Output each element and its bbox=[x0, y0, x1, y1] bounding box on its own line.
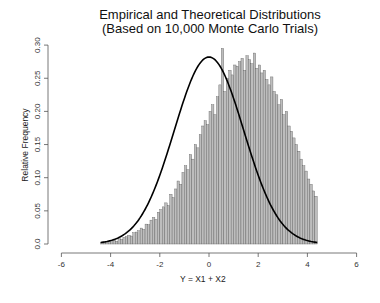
histogram-bar bbox=[202, 126, 204, 244]
histogram-bar bbox=[199, 135, 201, 244]
y-tick-label: 0.05 bbox=[33, 203, 42, 219]
histogram-bar bbox=[160, 210, 162, 244]
histogram-bar bbox=[143, 229, 145, 244]
histogram-bar bbox=[125, 237, 127, 244]
histogram-bar bbox=[263, 70, 265, 244]
histogram-bar bbox=[120, 239, 122, 244]
histogram-bar bbox=[162, 207, 164, 244]
histogram-bar bbox=[295, 145, 297, 244]
histogram-bar bbox=[246, 56, 248, 244]
histogram-bar bbox=[219, 85, 221, 244]
histogram-bar bbox=[118, 239, 120, 244]
histogram-bar bbox=[224, 92, 226, 244]
histogram-bar bbox=[273, 92, 275, 244]
histogram-bar bbox=[305, 171, 307, 244]
histogram-bar bbox=[179, 184, 181, 244]
histogram-bar bbox=[187, 170, 189, 244]
histogram-bar bbox=[130, 236, 132, 244]
x-tick-label: -2 bbox=[156, 260, 164, 269]
histogram-bar bbox=[310, 184, 312, 244]
histogram-bar bbox=[285, 111, 287, 244]
histogram-bar bbox=[175, 189, 177, 244]
histogram-bar bbox=[253, 53, 255, 244]
histogram-bar bbox=[167, 206, 169, 244]
histogram-bar bbox=[138, 231, 140, 244]
histogram-bar bbox=[271, 77, 273, 244]
x-tick-label: -6 bbox=[58, 260, 66, 269]
histogram-bar bbox=[288, 126, 290, 244]
histogram-bar bbox=[214, 115, 216, 244]
histogram-bar bbox=[298, 151, 300, 244]
y-tick-label: 0.15 bbox=[33, 136, 42, 152]
histogram-bar bbox=[207, 125, 209, 244]
histogram-bar bbox=[211, 105, 213, 244]
histogram-bar bbox=[293, 138, 295, 244]
histogram-bar bbox=[197, 148, 199, 244]
histogram-bar bbox=[148, 225, 150, 244]
histogram-bar bbox=[209, 111, 211, 244]
histogram-bar bbox=[150, 220, 152, 244]
x-tick-label: -4 bbox=[107, 260, 115, 269]
histogram-bar bbox=[236, 66, 238, 244]
histogram-bar bbox=[106, 243, 108, 244]
histogram-bar bbox=[300, 159, 302, 244]
histogram-bar bbox=[243, 70, 245, 244]
histogram-bar bbox=[116, 241, 118, 244]
histogram-plot: 0.00.050.100.150.200.250.30-6-4-20246 bbox=[0, 0, 380, 303]
histogram-bar bbox=[266, 80, 268, 244]
histogram-bar bbox=[278, 105, 280, 244]
histogram-bar bbox=[226, 78, 228, 244]
histogram-bar bbox=[184, 166, 186, 244]
x-tick-label: 6 bbox=[354, 260, 359, 269]
histogram-bar bbox=[302, 166, 304, 244]
histogram-bar bbox=[194, 145, 196, 244]
x-tick-label: 0 bbox=[207, 260, 212, 269]
histogram-bar bbox=[275, 95, 277, 244]
histogram-bar bbox=[234, 65, 236, 244]
x-axis-label: Y = X1 + X2 bbox=[180, 274, 226, 284]
histogram-bar bbox=[123, 237, 125, 244]
histogram-bar bbox=[155, 219, 157, 244]
histogram-bar bbox=[177, 181, 179, 244]
histogram-bar bbox=[192, 159, 194, 244]
y-tick-label: 0.10 bbox=[33, 169, 42, 185]
histogram-bar bbox=[268, 85, 270, 244]
y-tick-label: 0.30 bbox=[33, 37, 42, 53]
y-tick-label: 0.20 bbox=[33, 103, 42, 119]
histogram-bar bbox=[165, 203, 167, 244]
histogram-bar bbox=[140, 228, 142, 244]
histogram-bar bbox=[221, 48, 223, 244]
histogram-bar bbox=[241, 58, 243, 244]
histogram-bar bbox=[152, 217, 154, 244]
histogram-bar bbox=[315, 196, 317, 244]
histogram-bar bbox=[231, 75, 233, 244]
histogram-bar bbox=[239, 62, 241, 244]
histogram-bar bbox=[307, 179, 309, 244]
histogram-bar bbox=[312, 191, 314, 244]
histogram-bar bbox=[182, 172, 184, 244]
y-tick-label: 0.25 bbox=[33, 70, 42, 86]
histogram-bar bbox=[204, 121, 206, 244]
histogram-bar bbox=[261, 73, 263, 244]
histogram-bar bbox=[135, 232, 137, 244]
histogram-bar bbox=[157, 212, 159, 244]
histogram-bar bbox=[172, 198, 174, 244]
histogram-bar bbox=[229, 70, 231, 244]
histogram-bar bbox=[145, 224, 147, 244]
histogram-bar bbox=[216, 97, 218, 244]
histogram-bar bbox=[290, 131, 292, 244]
histogram-bar bbox=[128, 235, 130, 244]
x-tick-label: 2 bbox=[256, 260, 261, 269]
x-tick-label: 4 bbox=[305, 260, 310, 269]
histogram-bar bbox=[256, 68, 258, 244]
histogram-bar bbox=[113, 240, 115, 244]
histogram-bar bbox=[133, 233, 135, 244]
y-tick-label: 0.0 bbox=[33, 238, 42, 250]
histogram-bar bbox=[258, 65, 260, 244]
histogram-bar bbox=[170, 194, 172, 244]
y-axis-label: Relative Frequency bbox=[20, 95, 30, 195]
histogram-bar bbox=[189, 154, 191, 244]
